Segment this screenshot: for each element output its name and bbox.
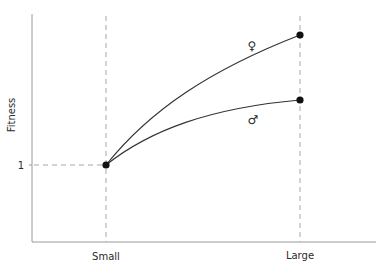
y-axis-label: Fitness (6, 98, 17, 133)
origin-point (102, 161, 109, 168)
x-tick-label-large: Large (286, 250, 314, 261)
x-tick-label-small: Small (92, 251, 120, 262)
male-large-point (296, 96, 303, 103)
male-symbol: ♂ (248, 113, 259, 127)
y-tick-label-1: 1 (18, 160, 24, 171)
chart: ♀ ♂ Fitness 1 Small Large (0, 0, 388, 270)
female-large-point (296, 31, 303, 38)
female-symbol: ♀ (248, 39, 257, 53)
